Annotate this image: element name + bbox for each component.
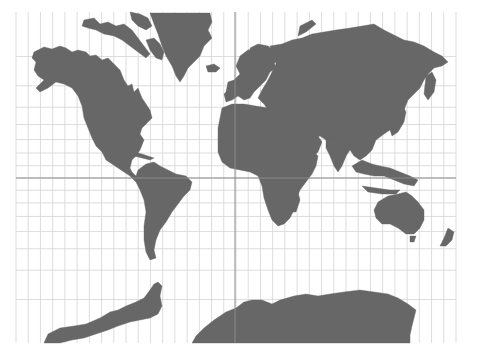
world-map: World Map (Mercator projection) xyxy=(0,0,483,359)
map-canvas xyxy=(0,0,483,359)
